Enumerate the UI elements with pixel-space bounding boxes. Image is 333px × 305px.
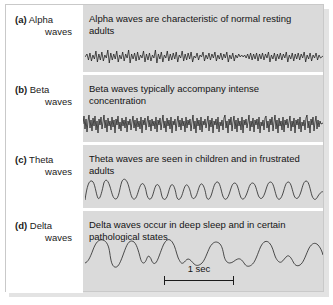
table-row: (b) Beta waves Beta waves typically acco… [6,75,323,142]
scale-bar-label: 1 sec [161,263,237,274]
wave-tag: (a) [15,14,27,25]
table-row: (d) Delta waves Delta waves occur in dee… [6,211,323,293]
alpha-waveform-svg [85,41,323,71]
wave-label-cell: (b) Beta waves [6,75,83,142]
wave-name-line2: waves [15,166,81,178]
wave-name-line1: Beta [30,84,50,95]
alpha-waveform-trace [85,41,323,71]
time-scale-bar: 1 sec [161,263,237,285]
wave-label: (c) Theta waves [15,154,81,177]
wave-tag: (d) [15,220,27,231]
wave-label-cell: (c) Theta waves [6,145,83,208]
wave-name-line2: waves [15,96,81,108]
wave-name-line2: waves [15,232,81,244]
wave-tag: (c) [15,154,27,165]
figure-plate: (a) Alpha waves Alpha waves are characte… [5,4,324,292]
wave-description: Beta waves typically accompany intense c… [89,83,315,106]
theta-waveform-trace [85,174,323,206]
wave-description: Theta waves are seen in children and in … [89,153,315,176]
wave-label-cell: (d) Delta waves [6,211,83,293]
wave-name-line2: waves [15,26,81,38]
wave-label: (a) Alpha waves [15,14,81,37]
wave-label-cell: (a) Alpha waves [6,5,83,72]
scale-bar-graphic [161,276,237,285]
beta-waveform-trace [83,107,323,140]
scale-bar-right-cap [233,276,234,285]
table-row: (c) Theta waves Theta waves are seen in … [6,145,323,208]
theta-waveform-svg [85,174,323,206]
wave-label: (b) Beta waves [15,84,81,107]
table-row: (a) Alpha waves Alpha waves are characte… [6,5,323,72]
wave-name-line1: Alpha [29,14,53,25]
eeg-wave-figure: (a) Alpha waves Alpha waves are characte… [0,0,333,305]
wave-name-line1: Delta [30,220,52,231]
wave-description: Alpha waves are characteristic of normal… [89,13,315,36]
scale-bar-line [164,280,234,281]
wave-label: (d) Delta waves [15,220,81,243]
wave-tag: (b) [15,84,27,95]
wave-name-line1: Theta [29,154,53,165]
beta-waveform-svg [83,107,323,140]
